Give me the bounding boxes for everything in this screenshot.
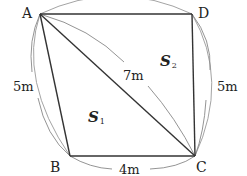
vertex-label-a: A	[21, 5, 33, 21]
dimension-arc-ab-upper	[31, 14, 40, 72]
edge-cd	[192, 14, 195, 156]
dimension-arc-bc-right	[150, 156, 195, 169]
vertex-label-c: C	[196, 159, 207, 175]
dimension-arc-cd-lower	[195, 100, 206, 156]
measurement-cd: 5m	[217, 79, 238, 94]
measurement-ab: 5m	[13, 79, 34, 94]
dimension-arc-cd-upper	[192, 14, 210, 70]
vertex-label-d: D	[198, 5, 209, 21]
area-s2-subscript: 2	[172, 61, 177, 70]
area-label-s2: S2	[160, 52, 177, 70]
area-label-s1: S1	[88, 108, 105, 126]
edge-ab	[40, 14, 70, 156]
area-s1-subscript: 1	[100, 117, 105, 126]
diagonal-ac	[40, 14, 195, 156]
dimension-arc-bc-left	[70, 156, 112, 169]
dimension-arc-ab-lower	[38, 98, 70, 156]
area-s2-symbol: S	[160, 52, 171, 70]
measurement-ac: 7m	[123, 68, 144, 83]
area-s1-symbol: S	[88, 108, 99, 126]
dimension-arc-ac-upper	[40, 14, 124, 62]
vertex-label-b: B	[50, 159, 60, 175]
circumcircle-top-arc	[40, 0, 192, 14]
measurement-bc: 4m	[119, 162, 140, 176]
cyclic-quadrilateral-diagram: A D B C 5m 5m 4m 7m S1 S2	[0, 0, 247, 176]
quadrilateral-edges	[40, 14, 195, 156]
dimension-arc-ac-lower	[148, 86, 195, 156]
